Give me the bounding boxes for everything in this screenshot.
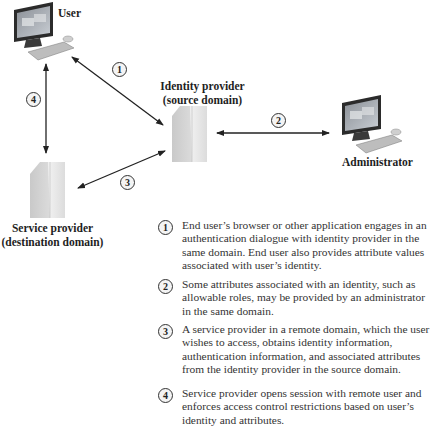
service-provider-server-icon	[30, 162, 65, 218]
user-label: User	[58, 6, 81, 20]
legend-number-badge: 2	[158, 279, 173, 294]
legend-item-3: 3 A service provider in a remote domain,…	[158, 323, 430, 378]
legend-number-badge: 3	[158, 324, 173, 339]
legend-number-badge: 4	[158, 388, 173, 403]
identity-provider-label: Identity provider (source domain)	[150, 79, 255, 107]
identity-provider-server-icon	[172, 106, 207, 162]
identity-provider-label-line2: (source domain)	[150, 93, 255, 107]
legend-text: End user’s browser or other application …	[182, 219, 430, 273]
legend-item-1: 1 End user’s browser or other applicatio…	[158, 219, 430, 274]
identity-provider-label-line1: Identity provider	[150, 79, 255, 93]
administrator-label: Administrator	[342, 155, 430, 169]
service-provider-label: Service provider (destination domain)	[0, 221, 105, 249]
administrator-computer-icon	[342, 95, 402, 153]
legend-item-4: 4 Service provider opens session with re…	[158, 387, 430, 428]
legend-item-2: 2 Some attributes associated with an ide…	[158, 278, 430, 320]
arrow-1-number-badge: 1	[112, 62, 127, 77]
legend-number-badge: 1	[158, 220, 173, 235]
arrow-4-number-badge: 4	[26, 92, 41, 107]
service-provider-label-line2: (destination domain)	[0, 235, 105, 249]
legend-text: Some attributes associated with an ident…	[182, 278, 430, 318]
legend-text: Service provider opens session with remo…	[182, 387, 430, 427]
legend-text: A service provider in a remote domain, w…	[182, 323, 430, 377]
arrow-3-number-badge: 3	[120, 175, 135, 190]
arrow-2-number-badge: 2	[271, 113, 286, 128]
service-provider-label-line1: Service provider	[0, 221, 105, 235]
